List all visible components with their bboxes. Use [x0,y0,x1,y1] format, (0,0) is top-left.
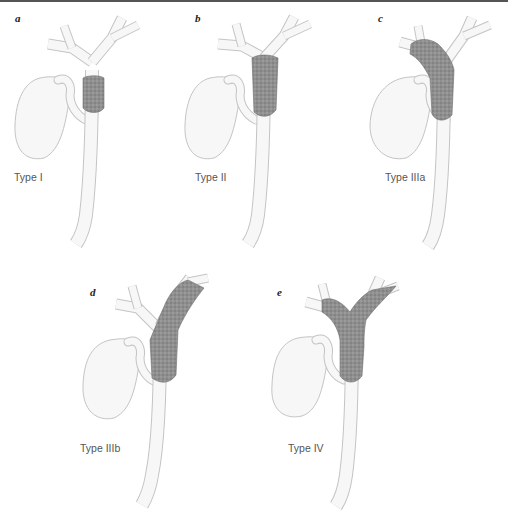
panel-type-ii: b Type II [170,0,340,260]
tumor-region [150,280,204,382]
panel-letter: d [90,286,96,298]
panel-letter: c [378,12,383,24]
panel-letter: a [15,12,21,24]
panel-type-iiib: d Type IIIb [80,260,260,519]
type-label: Type II [195,171,227,183]
type-label: Type IIIb [80,442,120,454]
biliary-tree-illustration [260,260,440,519]
gallbladder-shape [15,77,70,159]
tumor-region [83,76,104,113]
type-label: Type IV [288,442,324,454]
panel-type-iiia: c Type IIIa [338,0,508,260]
panel-letter: e [277,286,282,298]
type-label: Type I [14,171,43,183]
biliary-tree-illustration [0,0,170,260]
biliary-tree-illustration [170,0,340,260]
panel-type-i: a Type I [0,0,170,260]
type-label: Type IIIa [385,171,425,183]
biliary-tree-illustration [338,0,508,260]
panel-type-iv: e Type IV [260,260,440,519]
biliary-tree-illustration [80,260,260,519]
tumor-region [252,55,278,116]
panel-letter: b [195,12,201,24]
